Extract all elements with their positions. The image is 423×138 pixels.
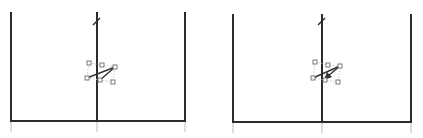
selection-handle[interactable] (100, 63, 104, 67)
selection-handle[interactable] (313, 60, 317, 64)
selected-segment[interactable] (87, 67, 115, 78)
left-panel (11, 12, 185, 132)
right-panel (233, 14, 411, 133)
selection-handle[interactable] (338, 64, 342, 68)
selection-handle[interactable] (111, 80, 115, 84)
right-panel-selection[interactable] (311, 60, 342, 84)
selection-handle[interactable] (336, 80, 340, 84)
drawing-canvas (0, 0, 423, 138)
left-panel-selection[interactable] (85, 61, 117, 84)
selection-handle[interactable] (87, 61, 91, 65)
selection-handle[interactable] (323, 78, 327, 82)
selection-handle[interactable] (85, 76, 89, 80)
selection-handle[interactable] (311, 76, 315, 80)
selection-handle[interactable] (98, 78, 102, 82)
selection-handle[interactable] (113, 65, 117, 69)
selection-handle[interactable] (326, 63, 330, 67)
